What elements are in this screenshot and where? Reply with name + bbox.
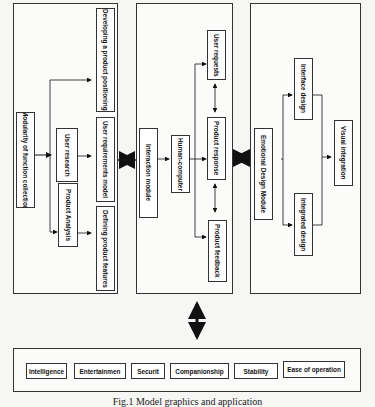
product-features-label: Defining product features — [102, 210, 109, 288]
product-positioning-box: Developing a product positioning — [96, 8, 115, 112]
attribute-entertainment: Entertainmen — [74, 363, 126, 379]
attribute-label: Ease of operation — [287, 366, 341, 373]
attribute-security: Securit — [131, 363, 165, 379]
figure-caption: Fig.1 Model graphics and application — [0, 396, 375, 407]
integrated-design-box: Integrated design — [294, 193, 313, 256]
attribute-label: Stability — [244, 368, 269, 375]
visual-integration-box: Visual integration — [334, 120, 353, 186]
user-requests-label: User requests — [213, 34, 220, 77]
connector-arrows — [0, 0, 375, 407]
attribute-label: Securit — [137, 368, 159, 375]
human-computer-label: Human-computer — [177, 138, 184, 191]
emotional-design-label: Emotional Design Module — [260, 135, 267, 213]
attribute-label: Companionship — [175, 368, 223, 375]
user-research-box: User research — [56, 128, 78, 182]
product-positioning-label: Developing a product positioning — [102, 9, 109, 111]
modularity-function-collection-box: Modularity of function collection — [16, 112, 35, 208]
emotional-design-module-box: Emotional Design Module — [254, 128, 273, 220]
user-requests-box: User requests — [207, 30, 226, 80]
user-requirements-model-box: User requirements model — [96, 117, 115, 202]
interaction-module-box: Interaction module — [139, 128, 158, 218]
visual-integration-label: Visual integration — [340, 126, 347, 180]
product-response-box: Product response — [207, 117, 226, 180]
attribute-label: Entertainmen — [80, 368, 121, 375]
product-feedback-label: Product feedback — [214, 224, 221, 278]
user-research-label: User research — [64, 134, 71, 177]
modularity-label: Modularity of function collection — [22, 112, 29, 208]
interface-design-box: Interface design — [294, 58, 313, 120]
integrated-design-label: Integrated design — [300, 198, 307, 251]
attribute-companionship: Companionship — [170, 363, 229, 379]
human-computer-box: Human-computer — [171, 135, 190, 193]
product-feedback-box: Product feedback — [208, 220, 227, 282]
product-response-label: Product response — [213, 121, 220, 175]
product-analysis-box: Product Analysis — [58, 183, 78, 247]
attribute-ease-of-operation: Ease of operation — [283, 361, 345, 378]
attribute-label: Intelligence — [29, 368, 64, 375]
interaction-module-label: Interaction module — [145, 144, 152, 201]
defining-product-features-box: Defining product features — [96, 206, 115, 291]
user-requirements-label: User requirements model — [102, 121, 109, 198]
attribute-intelligence: Intelligence — [26, 363, 67, 379]
interface-design-label: Interface design — [300, 64, 307, 113]
attribute-stability: Stability — [234, 363, 278, 379]
product-analysis-label: Product Analysis — [65, 189, 72, 241]
